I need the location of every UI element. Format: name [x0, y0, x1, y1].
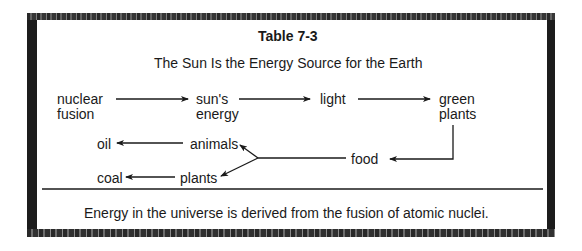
- arrow-split-to-animals: [240, 145, 258, 158]
- flow-arrows: [0, 0, 582, 251]
- arrow-green-plants-to-food: [390, 125, 453, 159]
- arrow-split-to-plants: [221, 158, 258, 176]
